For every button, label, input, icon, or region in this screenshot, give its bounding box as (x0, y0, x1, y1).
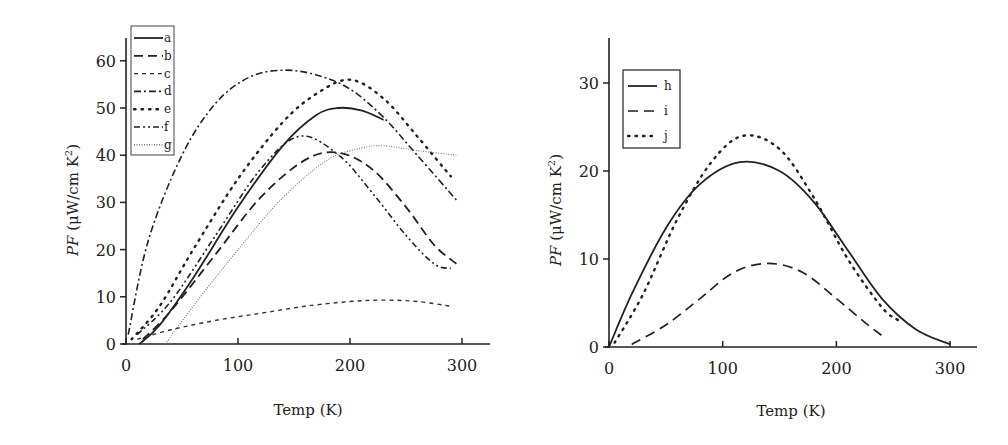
x-tick-label: 100 (707, 359, 738, 378)
left-y-axis-label: PF (μW/cm K2) (63, 144, 82, 257)
left-chart: 0102030405060 0100200300 Temp (K) PF (μW… (63, 26, 490, 419)
left-series-lines (128, 70, 456, 344)
legend-g-label: g (164, 138, 172, 152)
y-tick-label: 0 (589, 338, 599, 357)
left-legend: abcdefg (131, 26, 174, 155)
right-y-axis-label: PF (μW/cm K2) (546, 154, 565, 267)
y-tick-label: 20 (96, 241, 116, 260)
y-tick-label: 0 (106, 335, 116, 354)
x-tick-label: 0 (604, 359, 614, 378)
series-a-line (139, 108, 383, 344)
legend-h-label: h (664, 79, 672, 93)
y-tick-label: 20 (579, 162, 599, 181)
x-tick-label: 300 (935, 359, 966, 378)
series-i-line (632, 263, 886, 344)
x-tick-label: 100 (223, 356, 254, 375)
series-d-line (128, 70, 456, 334)
right-series-lines (609, 135, 950, 347)
y-tick-label: 10 (96, 288, 116, 307)
x-tick-label: 200 (821, 359, 852, 378)
left-y-ticks: 0102030405060 (96, 52, 126, 354)
legend-e-label: e (164, 102, 171, 116)
series-e-line (132, 80, 451, 340)
y-tick-label: 10 (579, 250, 599, 269)
right-legend: hij (623, 70, 680, 148)
y-tick-label: 30 (96, 193, 116, 212)
y-tick-label: 40 (96, 146, 116, 165)
x-tick-label: 0 (121, 356, 131, 375)
series-b-line (143, 152, 457, 339)
series-c-line (137, 300, 451, 339)
y-tick-label: 60 (96, 52, 116, 71)
figure: 0102030405060 0100200300 Temp (K) PF (μW… (0, 0, 1008, 445)
right-chart: 0102030 0100200300 Temp (K) PF (μW/cm K2… (546, 38, 977, 420)
legend-b-label: b (164, 49, 172, 63)
x-tick-label: 300 (447, 356, 478, 375)
legend-i-label: i (664, 104, 668, 118)
right-x-axis-label: Temp (K) (756, 402, 825, 420)
legend-d-label: d (164, 84, 172, 98)
series-f-line (137, 136, 451, 335)
legend-a-label: a (164, 31, 171, 45)
series-j-line (615, 135, 899, 342)
y-tick-label: 50 (96, 99, 116, 118)
left-x-axis-label: Temp (K) (273, 401, 342, 419)
right-y-ticks: 0102030 (579, 74, 609, 357)
x-tick-label: 200 (335, 356, 366, 375)
legend-c-label: c (164, 67, 171, 81)
y-tick-label: 30 (579, 74, 599, 93)
